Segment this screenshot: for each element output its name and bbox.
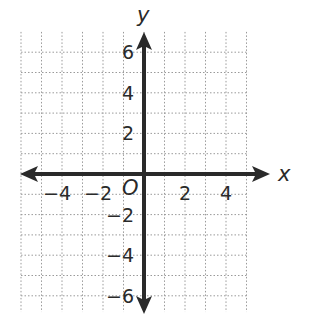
y-axis-label: y bbox=[136, 3, 150, 27]
x-tick-label: −2 bbox=[84, 182, 112, 204]
y-tick-label: −6 bbox=[106, 285, 134, 307]
y-tick-label: 2 bbox=[122, 122, 134, 144]
axes bbox=[20, 32, 270, 314]
y-tick-label: 4 bbox=[122, 82, 134, 104]
y-tick-label: −2 bbox=[106, 204, 134, 226]
coordinate-plane: x y O −4−224642−2−4−6 bbox=[0, 0, 309, 328]
grid bbox=[21, 32, 249, 312]
x-axis-label: x bbox=[277, 162, 291, 186]
x-tick-label: 4 bbox=[220, 182, 232, 204]
origin-label: O bbox=[122, 176, 139, 200]
x-tick-label: −4 bbox=[43, 182, 71, 204]
x-tick-label: 2 bbox=[179, 182, 191, 204]
y-tick-label: 6 bbox=[122, 41, 134, 63]
y-tick-label: −4 bbox=[106, 244, 134, 266]
